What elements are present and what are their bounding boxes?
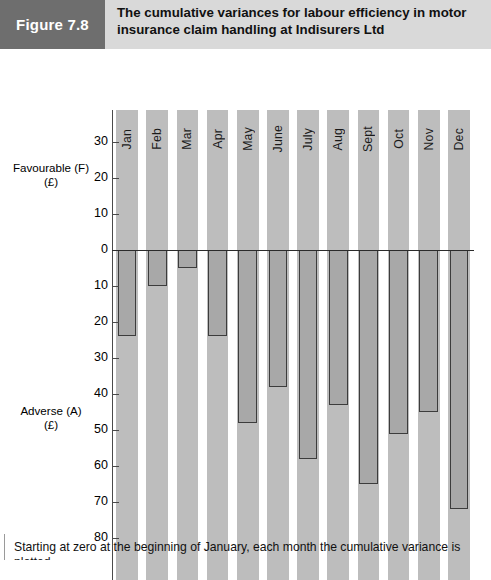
- figure-footer-text: Starting at zero at the beginning of Jan…: [14, 540, 484, 560]
- column-label-sept: Sept: [358, 116, 380, 162]
- chart-plot-area: JanFebMarAprMayJuneJulyAugSeptOctNovDec …: [0, 49, 491, 534]
- y-tick-label-20-5: 20: [74, 314, 108, 328]
- column-label-june: June: [267, 116, 289, 162]
- column-label-text: Sept: [361, 126, 375, 152]
- figure-number-tag: Figure 7.8: [0, 0, 105, 49]
- y-tick-mark-5: [113, 322, 119, 323]
- column-label-apr: Apr: [207, 116, 229, 162]
- chart-bar-apr: [208, 250, 227, 336]
- column-label-nov: Nov: [418, 116, 440, 162]
- y-tick-label-10-4: 10: [74, 278, 108, 292]
- y-tick-label-60-9: 60: [74, 458, 108, 472]
- y-tick-label-0-3: 0: [74, 242, 108, 256]
- y-tick-mark-0: [113, 142, 119, 143]
- figure-title: The cumulative variances for labour effi…: [117, 5, 482, 38]
- chart-bar-feb: [148, 250, 167, 286]
- chart-column-apr: Apr: [207, 110, 229, 580]
- chart-bar-mar: [178, 250, 197, 268]
- chart-bar-june: [269, 250, 288, 387]
- y-tick-label-30-0: 30: [74, 134, 108, 148]
- chart-columns: JanFebMarAprMayJuneJulyAugSeptOctNovDec: [112, 110, 474, 580]
- y-tick-mark-8: [113, 430, 119, 431]
- column-label-feb: Feb: [146, 116, 168, 162]
- favourable-caption-line2: (£): [44, 175, 58, 188]
- column-label-text: Mar: [180, 128, 194, 150]
- chart-column-jan: Jan: [116, 110, 138, 580]
- chart-bar-nov: [419, 250, 438, 412]
- adverse-axis-caption: Adverse (A) (£): [8, 404, 94, 431]
- favourable-caption-line1: Favourable (F): [13, 161, 89, 174]
- column-label-text: July: [301, 128, 315, 151]
- chart-bar-aug: [329, 250, 348, 405]
- y-tick-mark-1: [113, 178, 119, 179]
- y-tick-mark-10: [113, 502, 119, 503]
- y-tick-mark-2: [113, 214, 119, 215]
- adverse-caption-line2: (£): [44, 418, 58, 431]
- chart-bar-sept: [359, 250, 378, 484]
- column-label-aug: Aug: [327, 116, 349, 162]
- chart-bar-jan: [118, 250, 137, 336]
- y-tick-mark-4: [113, 286, 119, 287]
- column-label-oct: Oct: [388, 116, 410, 162]
- column-label-text: Oct: [392, 129, 406, 149]
- favourable-axis-caption: Favourable (F) (£): [8, 161, 94, 188]
- chart-bar-dec: [450, 250, 469, 509]
- y-tick-mark-7: [113, 394, 119, 395]
- figure-header: Figure 7.8 The cumulative variances for …: [0, 0, 491, 49]
- adverse-caption-line1: Adverse (A): [20, 404, 81, 417]
- column-label-text: Dec: [452, 128, 466, 150]
- chart-column-mar: Mar: [177, 110, 199, 580]
- y-tick-mark-11: [113, 538, 119, 539]
- y-tick-label-40-7: 40: [74, 386, 108, 400]
- column-label-jan: Jan: [116, 116, 138, 162]
- chart-bar-july: [299, 250, 318, 459]
- zero-baseline: [112, 250, 474, 251]
- y-tick-label-10-2: 10: [74, 206, 108, 220]
- column-label-text: May: [241, 127, 255, 151]
- y-tick-mark-6: [113, 358, 119, 359]
- y-tick-label-30-6: 30: [74, 350, 108, 364]
- chart-bar-may: [238, 250, 257, 423]
- chart-bar-oct: [389, 250, 408, 434]
- y-axis-labels: 30201001020304050607080: [68, 49, 108, 534]
- y-axis-line: [112, 110, 113, 580]
- column-label-text: June: [271, 125, 285, 152]
- column-label-text: Nov: [422, 128, 436, 150]
- column-label-text: Aug: [331, 128, 345, 150]
- column-label-dec: Dec: [448, 116, 470, 162]
- y-tick-mark-9: [113, 466, 119, 467]
- y-tick-label-70-10: 70: [74, 494, 108, 508]
- column-label-mar: Mar: [177, 116, 199, 162]
- column-label-text: Apr: [211, 129, 225, 149]
- column-label-text: Feb: [150, 128, 164, 150]
- column-label-july: July: [297, 116, 319, 162]
- chart-column-feb: Feb: [146, 110, 168, 580]
- column-label-may: May: [237, 116, 259, 162]
- column-label-text: Jan: [120, 129, 134, 149]
